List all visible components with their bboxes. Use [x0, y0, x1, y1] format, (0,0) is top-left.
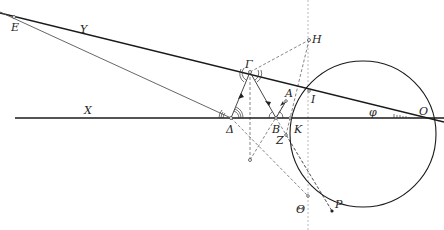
angle-mark-delta-right [234, 107, 243, 118]
circle [290, 61, 436, 207]
label-i: Ι [310, 93, 316, 106]
label-h: Η [311, 33, 322, 46]
point-b [275, 117, 278, 120]
label-k: Κ [293, 123, 303, 136]
geometry-diagram: Ε Υ Χ Δ Γ Η Α Β Ι Κ Ζ Ο φ Θ Ρ [0, 0, 444, 230]
ray-b-a [276, 101, 286, 118]
point-e [13, 16, 16, 19]
dashed-gamma-h [250, 40, 309, 72]
point-z [285, 134, 288, 137]
arrow-gamma-b [265, 101, 271, 106]
point-l [249, 159, 252, 162]
point-k [289, 117, 292, 120]
label-theta: Θ [296, 203, 305, 216]
label-delta: Δ [225, 123, 234, 136]
label-e: Ε [10, 21, 19, 34]
angle-mark-b-left [269, 112, 272, 118]
label-o: Ο [419, 105, 428, 118]
arrow-delta-gamma [238, 93, 244, 99]
point-p [330, 209, 333, 212]
angle-mark-b-right [280, 112, 283, 118]
dashed-z-p [286, 135, 332, 211]
line-y [0, 13, 444, 122]
point-theta [307, 195, 310, 198]
label-a: Α [284, 87, 293, 100]
ray-gamma-b [250, 72, 276, 118]
point-delta [230, 117, 233, 120]
label-phi: φ [369, 106, 377, 119]
label-gamma: Γ [244, 58, 253, 71]
point-h [308, 39, 311, 42]
label-p: Ρ [334, 198, 343, 211]
diagram-canvas: Ε Υ Χ Δ Γ Η Α Β Ι Κ Ζ Ο φ Θ Ρ [0, 0, 444, 230]
point-a [285, 100, 288, 103]
point-i [308, 90, 311, 93]
label-z: Ζ [275, 134, 284, 147]
ray-e-delta [0, 12, 231, 118]
label-x: Χ [83, 104, 93, 117]
angle-mark-delta-left [219, 110, 225, 118]
